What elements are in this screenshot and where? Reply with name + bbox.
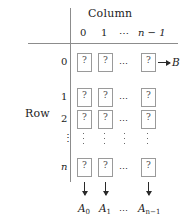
cell-value: ?: [99, 161, 112, 170]
cell-value: ?: [99, 91, 112, 100]
row-header-ellipsis: ⋮: [63, 133, 73, 143]
cell-row1-col0[interactable]: ?: [77, 88, 92, 107]
column-header-0: 0: [80, 28, 86, 38]
row-axis-title: Row: [25, 108, 50, 119]
cell-value: ?: [99, 56, 112, 65]
cell-value: ?: [99, 113, 112, 122]
column-result-subscript: n−1: [146, 208, 161, 216]
row-header-0: 0: [61, 57, 67, 67]
row-result-arrow-icon: [158, 62, 170, 63]
column-axis-title: Column: [88, 8, 132, 19]
column-header-1: 1: [101, 28, 107, 38]
column-result-subscript: 0: [86, 208, 90, 216]
row-header-2: 2: [61, 114, 67, 124]
rown-ellipsis: ⋯: [119, 165, 129, 174]
column-result-subscript: 1: [107, 208, 111, 216]
cell-value: ?: [142, 113, 155, 122]
cell-row2-col0[interactable]: ?: [77, 110, 92, 129]
row-result-label: B: [172, 57, 180, 68]
row-header-1: 1: [61, 92, 67, 102]
cell-value: ?: [142, 91, 155, 100]
column-result-label-0: A0: [78, 203, 90, 214]
column-result-label-1: A1: [99, 203, 111, 214]
cell-row2-col1[interactable]: ?: [98, 110, 113, 129]
column-header-ellipsis: ⋯: [119, 29, 129, 39]
vertical-divider-rule: [70, 8, 71, 182]
column-result-label-n1: An−1: [138, 203, 160, 214]
column-result-ellipsis: ⋯: [119, 207, 129, 216]
row-header-n: n: [61, 162, 67, 172]
cell-rown-coln1[interactable]: ?: [141, 158, 156, 177]
cell-row0-col0[interactable]: ?: [77, 53, 92, 72]
horizontal-divider-rule: [28, 43, 178, 44]
cell-value: ?: [78, 91, 91, 100]
column-result-base: A: [78, 202, 86, 214]
cell-value: ?: [78, 161, 91, 170]
column-result-arrow-icon-1: [105, 182, 106, 195]
row0-ellipsis: ⋯: [119, 60, 129, 69]
cell-row1-coln1[interactable]: ?: [141, 88, 156, 107]
row2-ellipsis: ⋯: [119, 117, 129, 126]
cell-rown-col1[interactable]: ?: [98, 158, 113, 177]
column-result-arrow-icon-0: [84, 182, 85, 195]
column-header-n-minus-1: n − 1: [138, 28, 166, 38]
cell-row0-coln1[interactable]: ?: [141, 53, 156, 72]
column-result-base: A: [138, 202, 146, 214]
row1-ellipsis: ⋯: [119, 95, 129, 104]
cell-value: ?: [142, 56, 155, 65]
cell-row2-coln1[interactable]: ?: [141, 110, 156, 129]
column-result-arrow-icon-n1: [148, 182, 149, 195]
cell-value: ?: [78, 56, 91, 65]
array-indexing-diagram: Column 0 1 ⋯ n − 1 Row 0 1 2 ⋮ n ? ? ⋯ ?…: [0, 0, 183, 221]
cell-rown-col0[interactable]: ?: [77, 158, 92, 177]
column-result-base: A: [99, 202, 107, 214]
cell-row0-col1[interactable]: ?: [98, 53, 113, 72]
cell-row1-col1[interactable]: ?: [98, 88, 113, 107]
cell-value: ?: [78, 113, 91, 122]
cell-value: ?: [142, 161, 155, 170]
